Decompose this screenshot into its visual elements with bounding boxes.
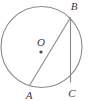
label-c: C [68,87,76,99]
label-a: A [25,89,33,101]
label-b: B [71,0,78,12]
label-o: O [37,36,45,48]
chord-a-b [30,18,71,86]
circle-geometry-figure: O A B C [0,0,88,101]
center-dot [39,50,42,53]
geometry-canvas: O A B C [0,0,88,101]
